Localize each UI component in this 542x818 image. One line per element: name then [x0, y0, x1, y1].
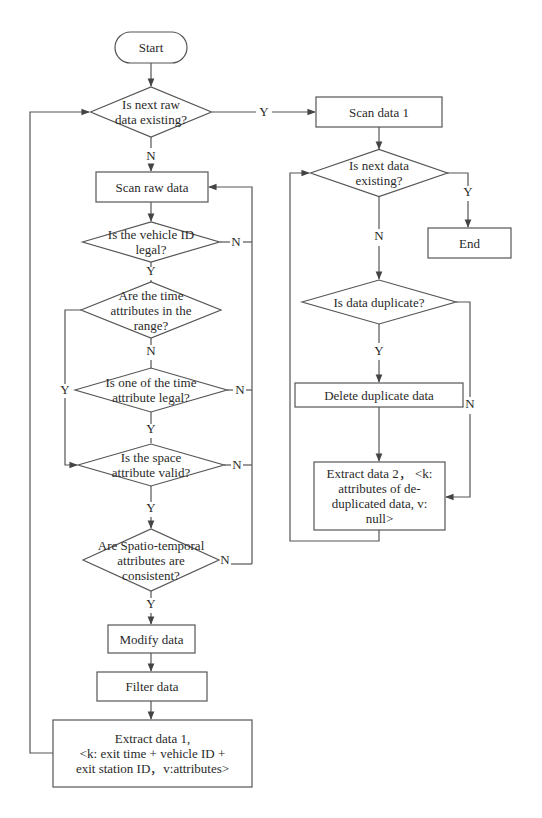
node-scan-data-1: Scan data 1 — [316, 97, 442, 127]
node-label: Are Spatio-temporal — [98, 538, 205, 553]
node-label: null> — [366, 511, 394, 526]
node-label: Is data duplicate? — [334, 295, 425, 310]
node-delete-dup: Delete duplicate data — [295, 383, 463, 407]
edge-label-no: N — [235, 382, 245, 397]
node-extract-1: Extract data 1,<k: exit time + vehicle I… — [53, 720, 252, 787]
node-label: End — [459, 236, 480, 251]
node-label: Delete duplicate data — [324, 388, 434, 403]
edge-dup-no-b — [446, 414, 470, 497]
node-label: legal? — [135, 242, 166, 257]
edge-label-yes: Y — [463, 184, 473, 199]
node-label: Start — [139, 40, 164, 55]
flowchart: StartIs next rawdata existing?Scan raw d… — [0, 0, 542, 818]
node-filter: Filter data — [97, 672, 207, 701]
node-label: Extract data 1, — [115, 731, 190, 746]
node-label: existing? — [356, 173, 403, 188]
node-label: Scan data 1 — [349, 105, 409, 120]
node-label: attributes of de- — [338, 481, 420, 496]
node-label: Modify data — [120, 632, 184, 647]
edge-label-yes: Y — [374, 343, 384, 358]
node-d-space-valid: Is the spaceattribute valid? — [78, 444, 224, 486]
node-scan-raw: Scan raw data — [96, 172, 208, 202]
nodes: StartIs next rawdata existing?Scan raw d… — [53, 32, 511, 787]
edge-extract1-loop — [30, 112, 89, 753]
node-d-vehicle-id: Is the vehicle IDlegal? — [83, 222, 220, 262]
edge-label-yes: Y — [146, 263, 156, 278]
node-d-one-time-legal: Is one of the timeattribute legal? — [75, 368, 227, 412]
node-label: Is the space — [121, 450, 182, 465]
node-label: consistent? — [122, 568, 180, 583]
node-d-spatio-temporal: Are Spatio-temporalattributes areconsist… — [83, 529, 219, 591]
node-label: Are the time — [119, 288, 184, 303]
edge-label-no: N — [374, 228, 384, 243]
edge-label-yes: Y — [60, 382, 70, 397]
node-d-time-range: Are the timeattributes in therange? — [81, 282, 221, 338]
edge-range-yes-b — [65, 398, 77, 465]
node-label: Is next raw — [122, 97, 180, 112]
node-label: range? — [134, 318, 169, 333]
flowchart-canvas: StartIs next rawdata existing?Scan raw d… — [0, 0, 542, 818]
edge-label-no: N — [465, 396, 475, 411]
edge-label-no: N — [146, 148, 156, 163]
edge-label-no: N — [146, 343, 156, 358]
edge-label-no: N — [220, 552, 230, 567]
node-label: Is next data — [349, 158, 409, 173]
edge-label-yes: Y — [146, 500, 156, 515]
edge-label-yes: Y — [146, 421, 156, 436]
node-label: Is the vehicle ID — [108, 227, 194, 242]
edge-label-yes: Y — [259, 104, 269, 119]
node-label: exit station ID，v:attributes> — [76, 761, 229, 776]
node-d-duplicate: Is data duplicate? — [302, 280, 456, 324]
node-d-next-raw: Is next rawdata existing? — [91, 87, 212, 137]
node-label: Filter data — [125, 679, 178, 694]
node-label: duplicated data, v: — [332, 496, 428, 511]
node-label: <k: exit time + vehicle ID + — [80, 746, 225, 761]
node-start: Start — [115, 32, 187, 63]
node-label: Is one of the time — [106, 375, 197, 390]
edge-label-no: N — [232, 457, 242, 472]
edge-label-no: N — [231, 234, 241, 249]
node-label: Extract data 2， <k: — [327, 466, 433, 481]
edge-label-yes: Y — [146, 596, 156, 611]
node-label: attributes are — [117, 553, 185, 568]
node-label: attribute legal? — [112, 390, 190, 405]
node-label: data existing? — [115, 112, 187, 127]
node-end: End — [428, 228, 511, 258]
node-label: attribute valid? — [112, 465, 191, 480]
node-d-next-data: Is next dataexisting? — [311, 150, 448, 197]
node-extract-2: Extract data 2， <k:attributes of de-dupl… — [314, 462, 445, 530]
edge-range-yes-a — [65, 310, 81, 384]
node-modify: Modify data — [108, 625, 195, 653]
node-label: attributes in the — [111, 303, 192, 318]
node-label: Scan raw data — [116, 180, 189, 195]
